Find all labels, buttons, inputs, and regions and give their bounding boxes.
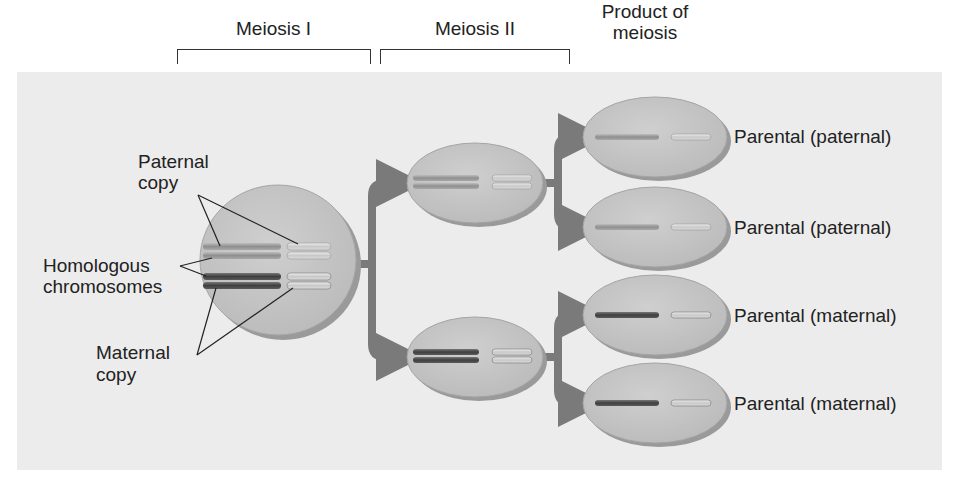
product-cell-3: [583, 275, 731, 359]
product-label-4: Parental (maternal): [734, 393, 897, 415]
label-paternal-line1: Paternal: [138, 151, 209, 173]
product-label-3: Parental (maternal): [734, 305, 897, 327]
label-homologous-line1: Homologous: [43, 255, 150, 277]
product-cell-4: [583, 363, 731, 447]
product-label-1: Parental (paternal): [734, 126, 891, 148]
meiosis-2-cell-bottom: [407, 317, 547, 401]
arrow-meiosis-1-split: [356, 183, 392, 357]
label-maternal-line1: Maternal: [96, 342, 170, 364]
product-cell-1: [583, 97, 731, 181]
label-paternal-line2: copy: [138, 172, 178, 194]
label-maternal-line2: copy: [96, 364, 136, 386]
meiosis-2-cell-top: [407, 143, 547, 227]
product-cell-2: [583, 187, 731, 271]
product-label-2: Parental (paternal): [734, 217, 891, 239]
label-homologous-line2: chromosomes: [43, 276, 162, 298]
